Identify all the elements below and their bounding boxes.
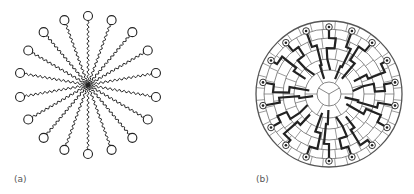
polar-head: [16, 69, 25, 78]
chain-path: [335, 32, 352, 79]
panel-b: (b): [214, 0, 414, 194]
chain-path: [264, 83, 309, 93]
micelle-diagram: [0, 0, 200, 194]
chain-path: [272, 57, 306, 79]
tail-chain: [88, 73, 151, 85]
polar-head: [24, 115, 33, 124]
tail-chain: [87, 21, 89, 86]
tail-chain: [47, 85, 88, 135]
tail-chain: [88, 85, 130, 134]
panel-a: (a): [0, 0, 200, 194]
chain-path: [346, 116, 372, 145]
tail-chain: [46, 36, 88, 85]
tail-chain: [66, 85, 88, 146]
tail-chain: [88, 35, 129, 85]
tail-chain: [87, 85, 89, 150]
polar-head: [128, 28, 137, 37]
panel-a-label: (a): [14, 174, 27, 184]
polar-head: [84, 12, 93, 21]
tail-chain: [65, 25, 88, 85]
polar-head: [107, 145, 116, 154]
polar-head: [151, 92, 160, 101]
chain-path: [353, 83, 394, 92]
polar-head: [128, 133, 137, 142]
polar-head: [107, 16, 116, 25]
polar-head: [151, 69, 160, 78]
polar-head: [24, 46, 33, 55]
polar-head: [39, 28, 48, 37]
polar-head: [39, 133, 48, 142]
polar-head: [143, 46, 152, 55]
polar-head: [84, 150, 93, 159]
tail-chain: [88, 85, 111, 145]
tail-chain: [25, 85, 88, 97]
lattice-micelle-diagram: [214, 0, 414, 194]
polar-head: [60, 16, 69, 25]
polar-head: [60, 145, 69, 154]
polar-head: [16, 92, 25, 101]
chain-path: [354, 61, 386, 81]
panel-b-label: (b): [256, 174, 269, 184]
chain-path: [327, 28, 336, 70]
tail-chain: [88, 24, 110, 85]
polar-head: [143, 115, 152, 124]
